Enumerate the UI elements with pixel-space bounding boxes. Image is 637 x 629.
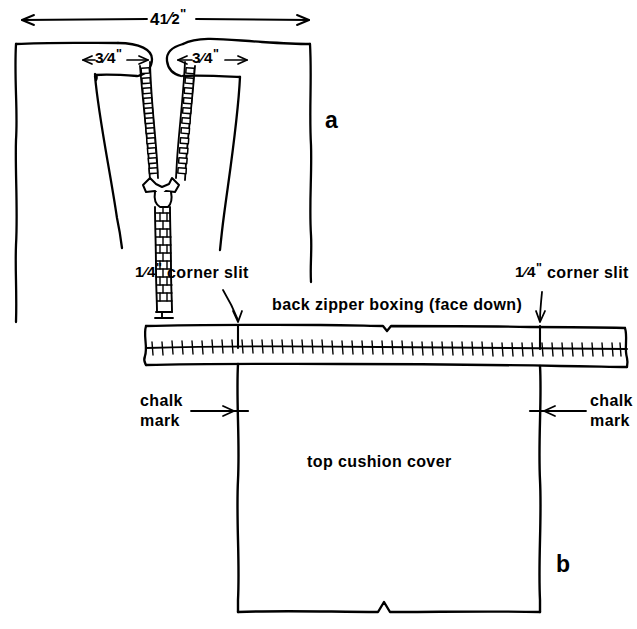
corner-slit-label-right: 1⁄4" corner slit xyxy=(515,262,629,282)
dim-whole: 4 xyxy=(150,10,160,29)
corner-slit-right-fraction: 1⁄4 xyxy=(515,263,536,280)
chalk-mark-left-line2: mark xyxy=(140,411,183,431)
line-art-layer xyxy=(0,0,637,629)
dimension-label-overall: 41⁄2" xyxy=(150,7,187,29)
zipper-left-teeth xyxy=(141,68,158,174)
corner-slit-right-suffix: corner slit xyxy=(542,264,629,281)
chalk-mark-right-line2: mark xyxy=(590,411,633,431)
chalk-mark-left-line1: chalk xyxy=(140,391,183,411)
right-slit-denominator: 4 xyxy=(204,49,213,66)
corner-slit-pointer-left xyxy=(223,290,242,322)
dim-denominator: 2 xyxy=(172,11,181,27)
chalk-mark-label-left: chalk mark xyxy=(140,391,183,430)
figure-canvas: 41⁄2" 3⁄4" 3⁄4" a 1⁄4" corner slit 1⁄4" … xyxy=(0,0,637,629)
corner-slit-right-numerator: 1 xyxy=(515,263,524,280)
dimension-label-right-slit: 3⁄4" xyxy=(192,48,219,68)
dim-fraction: 1⁄2 xyxy=(160,9,180,27)
figure-label-b: b xyxy=(556,552,570,578)
dimension-label-left-slit: 3⁄4" xyxy=(95,48,122,68)
right-slit-fraction: 3⁄4 xyxy=(192,49,213,66)
corner-slit-left-denominator: 4 xyxy=(147,263,156,280)
right-slit-numerator: 3 xyxy=(192,49,201,66)
zipper-closed-teeth xyxy=(156,207,172,301)
dim-unit: " xyxy=(180,6,187,21)
left-slit-numerator: 3 xyxy=(95,49,104,66)
left-slit-unit: " xyxy=(116,47,122,61)
corner-slit-left-numerator: 1 xyxy=(135,263,144,280)
top-cushion-cover-outline xyxy=(237,364,540,612)
fabric-panel-right xyxy=(167,39,311,282)
corner-slit-pointer-right xyxy=(536,292,545,322)
zipper-slider xyxy=(143,178,179,207)
left-slit-denominator: 4 xyxy=(107,49,116,66)
corner-slit-left-suffix: corner slit xyxy=(162,264,249,281)
figure-label-a: a xyxy=(325,108,338,134)
boxing-label: back zipper boxing (face down) xyxy=(272,296,522,314)
left-slit-fraction: 3⁄4 xyxy=(95,49,116,66)
corner-slit-right-denominator: 4 xyxy=(527,263,536,280)
corner-slit-label-left: 1⁄4" corner slit xyxy=(135,262,249,282)
chalk-mark-label-right: chalk mark xyxy=(590,391,633,430)
stitch-line xyxy=(146,346,627,349)
fabric-panel-left xyxy=(15,43,152,322)
corner-slit-left-fraction: 1⁄4 xyxy=(135,263,156,280)
right-slit-unit: " xyxy=(213,47,219,61)
chalk-mark-right-line1: chalk xyxy=(590,391,633,411)
cushion-cover-label: top cushion cover xyxy=(307,453,452,471)
